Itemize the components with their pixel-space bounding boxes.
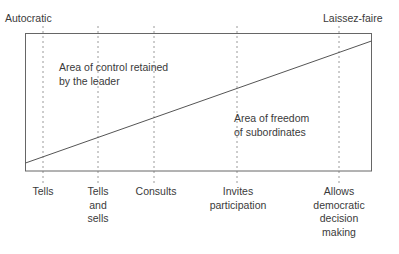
label-laissez-faire: Laissez-faire <box>323 12 383 26</box>
region-leader-control: Area of control retained by the leader <box>59 61 168 88</box>
label-autocratic: Autocratic <box>5 12 52 26</box>
behavior-consults: Consults <box>136 185 177 199</box>
behavior-allows-democratic-decision-making: Allows democratic decision making <box>313 185 364 239</box>
behavior-tells-and-sells: Tells and sells <box>87 185 108 226</box>
behavior-tells: Tells <box>32 185 53 199</box>
behavior-invites-participation: Invites participation <box>210 185 267 212</box>
region-subordinate-freedom: Area of freedom of subordinates <box>234 112 309 139</box>
control-freedom-diagonal <box>26 41 372 163</box>
